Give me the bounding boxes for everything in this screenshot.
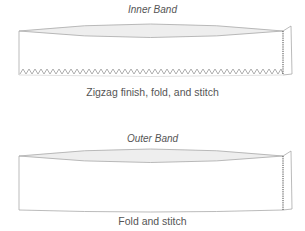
outer-band-title: Outer Band: [0, 133, 305, 144]
inner-seam-flap: [283, 26, 292, 75]
zigzag-edge: [20, 69, 283, 74]
outer-band-caption: Fold and stitch: [0, 215, 305, 227]
outer-band-opening: [19, 149, 283, 163]
outer-band-bottom-edge: [19, 210, 283, 212]
inner-band-caption: Zigzag finish, fold, and stitch: [0, 86, 305, 98]
inner-band-illustration: [0, 0, 305, 231]
outer-seam-flap: [283, 151, 292, 210]
inner-band-opening: [19, 24, 283, 38]
